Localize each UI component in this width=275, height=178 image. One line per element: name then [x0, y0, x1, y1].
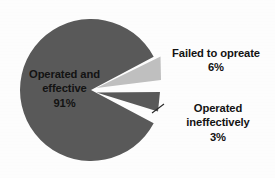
pie-label-operated-ineffectively-line1: Operated: [166, 101, 270, 115]
pie-label-failed-to-operate-line1: Failed to opreate: [162, 46, 270, 60]
pie-label-operated-ineffectively: Operated ineffectively 3%: [166, 101, 270, 144]
pie-value-operated-ineffectively: 3%: [166, 130, 270, 144]
pie-value-failed-to-operate: 6%: [162, 60, 270, 74]
pie-label-operated-effective: Operated and effective 91%: [12, 67, 117, 110]
pie-label-failed-to-operate: Failed to opreate 6%: [162, 46, 270, 75]
pie-label-operated-effective-line1: Operated and: [12, 67, 117, 81]
pie-label-operated-effective-line2: effective: [12, 81, 117, 95]
pie-chart-figure: Operated and effective 91% Failed to opr…: [0, 0, 275, 178]
pie-label-operated-ineffectively-line2: ineffectively: [166, 115, 270, 129]
pie-value-operated-effective: 91%: [12, 96, 117, 110]
